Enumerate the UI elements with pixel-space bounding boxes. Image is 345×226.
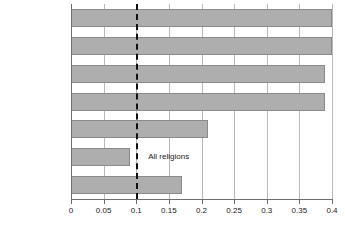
bar (71, 93, 325, 111)
x-axis-tick (299, 200, 300, 204)
x-axis-tick (71, 200, 72, 204)
x-axis-tick-label: 0.15 (161, 206, 177, 215)
x-axis-tick-label: 0.35 (292, 206, 308, 215)
bar (71, 65, 325, 83)
x-axis-tick (136, 200, 137, 204)
x-axis-tick (202, 200, 203, 204)
reference-line (136, 4, 138, 199)
y-axis-line (71, 4, 72, 199)
x-axis-tick (267, 200, 268, 204)
x-axis-tick-label: 0.25 (226, 206, 242, 215)
x-axis-tick (104, 200, 105, 204)
bar (71, 9, 332, 27)
x-axis-tick (234, 200, 235, 204)
x-axis-tick-label: 0 (69, 206, 73, 215)
bar (71, 37, 332, 55)
bar (71, 120, 208, 138)
x-axis-tick-label: 0.1 (131, 206, 142, 215)
x-axis-tick-label: 0.05 (96, 206, 112, 215)
reference-line-label: All religions (148, 152, 189, 161)
plot-area (71, 4, 332, 199)
bar-chart: 00.050.10.150.20.250.30.350.4 HinduSikhJ… (0, 0, 345, 226)
x-axis-tick (332, 200, 333, 204)
bar (71, 148, 130, 166)
gridline (332, 4, 333, 199)
bar (71, 176, 182, 194)
x-axis-tick-label: 0.2 (196, 206, 207, 215)
x-axis-tick (169, 200, 170, 204)
x-axis-tick-label: 0.3 (261, 206, 272, 215)
x-axis-tick-label: 0.4 (326, 206, 337, 215)
